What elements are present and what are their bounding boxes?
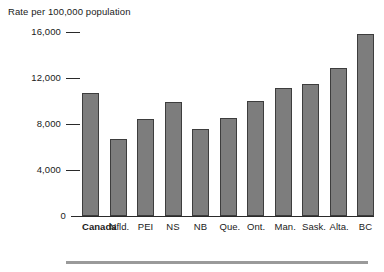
bar[interactable] — [275, 88, 292, 216]
x-axis-label: PEI — [137, 220, 154, 233]
y-axis-tick-label: 8,000 — [37, 118, 61, 130]
x-axis-label-text: Que. — [220, 220, 241, 233]
bar[interactable] — [302, 84, 319, 216]
bar-slot — [110, 32, 127, 216]
bar[interactable] — [137, 119, 154, 216]
bar-slot — [137, 32, 154, 216]
bar[interactable] — [247, 101, 264, 216]
bar-series — [82, 32, 374, 216]
bar[interactable] — [82, 93, 99, 216]
y-axis-tick-label: 16,000 — [31, 26, 61, 38]
x-axis-labels: CanadaNfld.PEINSNBQue.Ont.Man.Sask.Alta.… — [82, 220, 374, 233]
bar-slot — [275, 32, 292, 216]
bar-chart-plot: 16,000 12,000 8,000 4,000 0 CanadaNfld.P… — [0, 0, 384, 272]
bar-slot — [165, 32, 182, 216]
bar[interactable] — [220, 118, 237, 216]
x-axis-baseline — [73, 216, 374, 217]
bar[interactable] — [330, 68, 347, 216]
x-axis-label-text: NB — [194, 220, 207, 233]
bar[interactable] — [357, 34, 374, 216]
y-axis-tick-mark-icon — [66, 170, 80, 171]
bar-slot — [82, 32, 99, 216]
bar-slot — [330, 32, 347, 216]
x-axis-label: Ont. — [247, 220, 264, 233]
y-axis-tick-label: 4,000 — [37, 164, 61, 176]
y-axis-tick-4000: 4,000 — [0, 164, 82, 176]
y-axis-tick-mark-icon — [66, 124, 80, 125]
x-axis-label-text: NS — [166, 220, 179, 233]
bar-slot — [192, 32, 209, 216]
x-axis-label: Man. — [275, 220, 292, 233]
x-axis-label: Sask. — [302, 220, 319, 233]
x-axis-label-text: Nfld. — [110, 220, 130, 233]
y-axis-tick-8000: 8,000 — [0, 118, 82, 130]
bar[interactable] — [110, 139, 127, 216]
x-axis-label-text: Ont. — [247, 220, 265, 233]
x-axis-label-text: Sask. — [302, 220, 326, 233]
bar-slot — [247, 32, 264, 216]
bar-slot — [357, 32, 374, 216]
x-axis-label: BC — [357, 220, 374, 233]
y-axis-tick-12000: 12,000 — [0, 72, 82, 84]
x-axis-label: Alta. — [330, 220, 347, 233]
y-axis-tick-label: 0 — [61, 210, 66, 222]
bar-slot — [220, 32, 237, 216]
bar[interactable] — [165, 102, 182, 216]
x-axis-label: Canada — [82, 220, 99, 233]
x-axis-label-text: BC — [359, 220, 372, 233]
bar[interactable] — [192, 129, 209, 216]
x-axis-label-text: PEI — [138, 220, 153, 233]
footer-divider — [66, 261, 368, 264]
x-axis-label: Nfld. — [110, 220, 127, 233]
x-axis-label-text: Man. — [275, 220, 296, 233]
x-axis-label: Que. — [220, 220, 237, 233]
bar-slot — [302, 32, 319, 216]
x-axis-label-text: Alta. — [330, 220, 349, 233]
y-axis-tick-0: 0 — [0, 210, 82, 222]
y-axis-tick-16000: 16,000 — [0, 26, 82, 38]
x-axis-label: NB — [192, 220, 209, 233]
y-axis-tick-label: 12,000 — [31, 72, 61, 84]
x-axis-label: NS — [165, 220, 182, 233]
y-axis-tick-mark-icon — [66, 32, 80, 33]
y-axis-tick-mark-icon — [66, 78, 80, 79]
